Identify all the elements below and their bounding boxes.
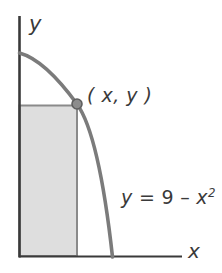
equation-minus: – <box>174 186 196 208</box>
equation-constant: 9 <box>161 186 173 208</box>
point-marker <box>72 99 82 109</box>
curve-equation-label: y = 9 – x2 <box>121 188 216 207</box>
equation-lhs: y <box>121 186 133 208</box>
equation-equals: = <box>133 186 162 208</box>
shaded-rectangle <box>20 106 78 257</box>
point-coordinate-label: ( x, y ) <box>87 86 152 105</box>
math-figure-graph: y x ( x, y ) y = 9 – x2 <box>0 0 222 273</box>
y-axis-label: y <box>29 14 41 35</box>
x-axis-label: x <box>188 241 200 261</box>
equation-variable: x <box>196 186 208 208</box>
graph-canvas <box>0 0 222 273</box>
equation-exponent: 2 <box>208 186 216 200</box>
